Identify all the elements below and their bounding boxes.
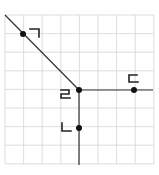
label-digeut (129, 75, 138, 82)
labels (30, 29, 138, 131)
vertex-point-rieul (76, 87, 82, 93)
label-rieul (61, 90, 70, 98)
point-nieun (76, 125, 82, 131)
angle-diagram (0, 0, 159, 175)
label-giyeok (30, 29, 39, 37)
point-digeut (131, 87, 137, 93)
point-giyeok (20, 31, 26, 37)
